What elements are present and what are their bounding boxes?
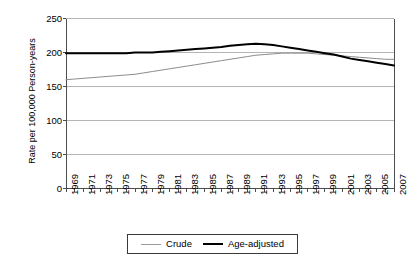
- x-tick-label-1979: 1979: [156, 173, 165, 194]
- legend-item-crude: Crude: [141, 239, 192, 249]
- x-tick-label-1989: 1989: [242, 173, 251, 194]
- x-tick-label-1991: 1991: [259, 173, 268, 194]
- x-tick-label-1973: 1973: [104, 173, 113, 194]
- x-tick-label-1995: 1995: [294, 173, 303, 194]
- legend-label-age-adjusted: Age-adjusted: [228, 239, 284, 249]
- x-tick-label-1971: 1971: [87, 173, 96, 194]
- x-tick-label-1999: 1999: [328, 173, 337, 194]
- legend-item-age-adjusted: Age-adjusted: [203, 239, 284, 249]
- x-tick-label-2001: 2001: [346, 173, 355, 194]
- series-line-age-adjusted: [66, 44, 394, 66]
- x-tick-label-1975: 1975: [121, 173, 130, 194]
- x-tick-label-1997: 1997: [311, 173, 320, 194]
- x-tick-label-1983: 1983: [190, 173, 199, 194]
- legend-swatch-age-adjusted-icon: [203, 243, 223, 245]
- x-tick-label-1969: 1969: [70, 173, 79, 194]
- x-tick-label-2007: 2007: [398, 173, 407, 194]
- plot-area: [0, 0, 417, 265]
- legend-swatch-crude-icon: [141, 244, 161, 245]
- x-tick-label-1993: 1993: [277, 173, 286, 194]
- chart-container: Rate per 100,000 Person-years 0501001502…: [0, 0, 417, 265]
- x-tick-label-1977: 1977: [139, 173, 148, 194]
- x-tick-label-2005: 2005: [380, 173, 389, 194]
- legend-label-crude: Crude: [166, 239, 192, 249]
- chart-legend: Crude Age-adjusted: [127, 234, 298, 254]
- x-tick-label-2003: 2003: [363, 173, 372, 194]
- x-tick-label-1981: 1981: [173, 173, 182, 194]
- x-tick-label-1985: 1985: [208, 173, 217, 194]
- x-tick-label-1987: 1987: [225, 173, 234, 194]
